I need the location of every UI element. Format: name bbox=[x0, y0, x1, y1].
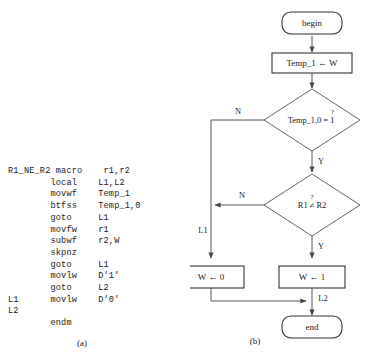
edge-label-bit-yes: Y bbox=[318, 157, 324, 166]
code-line: movlw D'1' bbox=[8, 271, 188, 283]
caption-a: (a) bbox=[42, 338, 122, 348]
code-line: subwf r2,W bbox=[8, 236, 188, 248]
assembly-code-listing: R1_NE_R2 macro r1,r2 local L1,L2 movwf T… bbox=[8, 166, 188, 330]
node-set-w-zero-label: W ← 0 bbox=[198, 272, 225, 282]
node-set-w-one-label: W ← 1 bbox=[299, 272, 325, 282]
node-decision-cmp-qmark: ? bbox=[311, 193, 314, 200]
code-line: goto L1 bbox=[8, 213, 188, 225]
code-line: local L1,L2 bbox=[8, 178, 188, 190]
node-begin-label: begin bbox=[302, 18, 322, 28]
edge-set-w-zero-to-l2 bbox=[211, 288, 306, 301]
edge-bit-no-branch bbox=[211, 120, 265, 258]
code-line: endm bbox=[8, 318, 188, 330]
node-decision-bit-label: Temp_1,0 = 1 bbox=[288, 116, 335, 125]
code-line: R1_NE_R2 macro r1,r2 bbox=[8, 166, 188, 178]
flowchart-panel: begin Temp_1 ← W Temp_1,0 = 1 ? R1 ≠ R2 … bbox=[190, 0, 371, 360]
code-line: goto L2 bbox=[8, 283, 188, 295]
edge-label-bit-no: N bbox=[235, 107, 241, 116]
code-line: btfss Temp_1,0 bbox=[8, 201, 188, 213]
node-end-label: end bbox=[306, 322, 319, 332]
code-line: movfw r1 bbox=[8, 225, 188, 237]
node-decision-bit-qmark: ? bbox=[331, 108, 334, 115]
edge-label-l1: L1 bbox=[198, 226, 207, 235]
edge-label-l2: L2 bbox=[318, 294, 327, 303]
code-line: goto L1 bbox=[8, 260, 188, 272]
node-assign-temp-label: Temp_1 ← W bbox=[286, 58, 338, 68]
code-line: movwf Temp_1 bbox=[8, 189, 188, 201]
node-decision-cmp-label: R1 ≠ R2 bbox=[298, 201, 326, 210]
edge-label-cmp-no: N bbox=[239, 191, 245, 200]
figure-container: R1_NE_R2 macro r1,r2 local L1,L2 movwf T… bbox=[0, 0, 371, 360]
edge-label-cmp-yes: Y bbox=[318, 242, 324, 251]
code-line: skpnz bbox=[8, 248, 188, 260]
code-line: L2 bbox=[8, 306, 188, 318]
code-line: L1 movlw D'0' bbox=[8, 295, 188, 307]
caption-b: (b) bbox=[215, 336, 295, 346]
